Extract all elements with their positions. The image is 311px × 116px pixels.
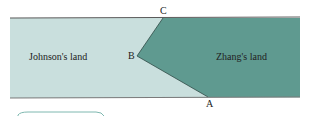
johnson-land-label: Johnson's land (29, 51, 87, 62)
top-edge (10, 17, 300, 18)
land-diagram: Johnson's land Zhang's land C B A (0, 0, 311, 116)
point-a-label: A (206, 98, 214, 109)
partial-frame (18, 112, 104, 116)
point-b-label: B (128, 50, 135, 61)
zhang-land-label: Zhang's land (216, 51, 267, 62)
point-c-label: C (160, 5, 167, 16)
